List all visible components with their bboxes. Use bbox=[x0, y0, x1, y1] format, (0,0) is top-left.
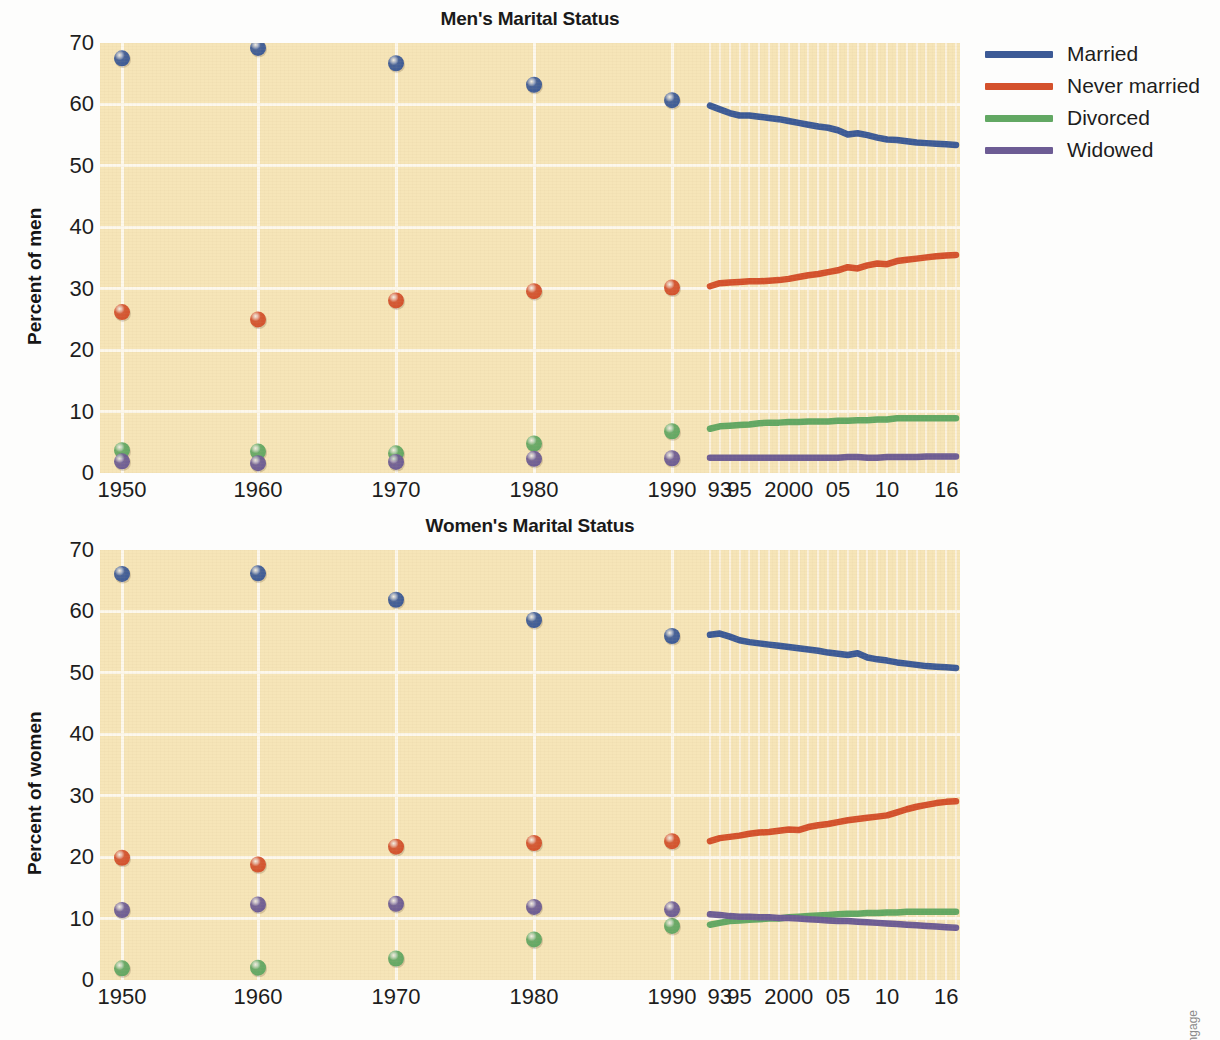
legend-label: Never married bbox=[1067, 74, 1200, 98]
series-line bbox=[710, 456, 956, 457]
data-point-marker bbox=[664, 423, 681, 441]
data-point-marker bbox=[664, 901, 681, 919]
y-tick-label: 60 bbox=[30, 91, 94, 117]
data-point-marker bbox=[664, 279, 681, 297]
y-axis-ticks-men: 010203040506070 bbox=[20, 43, 94, 473]
copyright-notice: © 2019 Cengage bbox=[1186, 1010, 1200, 1040]
x-tick-label: 05 bbox=[826, 984, 850, 1010]
x-tick-label: 1950 bbox=[98, 477, 147, 503]
x-tick-label: 1980 bbox=[510, 984, 559, 1010]
data-point-marker bbox=[388, 592, 405, 610]
y-tick-label: 70 bbox=[30, 537, 94, 563]
x-tick-label: 16 bbox=[934, 984, 958, 1010]
series-layer-women bbox=[100, 550, 960, 980]
data-point-marker bbox=[250, 896, 267, 914]
data-point-marker bbox=[526, 451, 543, 469]
y-tick-label: 30 bbox=[30, 783, 94, 809]
x-tick-label: 10 bbox=[875, 984, 899, 1010]
y-tick-label: 50 bbox=[30, 153, 94, 179]
figure-root: Men's Marital Status Percent of men 0102… bbox=[0, 0, 1220, 1040]
data-point-marker bbox=[250, 960, 267, 978]
data-point-marker bbox=[388, 55, 405, 73]
legend-men: MarriedNever marriedDivorcedWidowed bbox=[985, 38, 1200, 166]
legend-swatch bbox=[985, 83, 1053, 90]
plot-area-men bbox=[100, 43, 960, 473]
series-line bbox=[710, 634, 956, 668]
x-tick-label: 2000 bbox=[764, 477, 813, 503]
legend-item[interactable]: Divorced bbox=[985, 102, 1200, 134]
data-point-marker bbox=[388, 951, 405, 969]
data-point-marker bbox=[664, 918, 681, 936]
data-point-marker bbox=[388, 839, 405, 857]
y-tick-label: 0 bbox=[30, 460, 94, 486]
x-tick-label: 1990 bbox=[648, 477, 697, 503]
y-tick-label: 20 bbox=[30, 844, 94, 870]
data-point-marker bbox=[388, 292, 405, 310]
legend-label: Widowed bbox=[1067, 138, 1153, 162]
y-tick-label: 0 bbox=[30, 967, 94, 993]
series-line bbox=[710, 418, 956, 428]
y-tick-label: 50 bbox=[30, 660, 94, 686]
legend-item[interactable]: Never married bbox=[985, 70, 1200, 102]
x-tick-label: 1970 bbox=[372, 984, 421, 1010]
series-layer-men bbox=[100, 43, 960, 473]
data-point-marker bbox=[114, 566, 131, 584]
data-point-marker bbox=[250, 311, 267, 329]
legend-item[interactable]: Married bbox=[985, 38, 1200, 70]
data-point-marker bbox=[250, 857, 267, 875]
x-tick-label: 2000 bbox=[764, 984, 813, 1010]
y-tick-label: 20 bbox=[30, 337, 94, 363]
data-point-marker bbox=[388, 896, 405, 914]
data-point-marker bbox=[526, 77, 543, 95]
data-point-marker bbox=[526, 612, 543, 630]
data-point-marker bbox=[114, 850, 131, 868]
y-tick-label: 70 bbox=[30, 30, 94, 56]
data-point-marker bbox=[114, 50, 131, 68]
data-point-marker bbox=[664, 450, 681, 468]
data-point-marker bbox=[664, 628, 681, 646]
x-tick-label: 95 bbox=[727, 984, 751, 1010]
data-point-marker bbox=[250, 565, 267, 583]
data-point-marker bbox=[526, 835, 543, 853]
legend-item[interactable]: Widowed bbox=[985, 134, 1200, 166]
x-tick-label: 1960 bbox=[234, 477, 283, 503]
y-tick-label: 40 bbox=[30, 214, 94, 240]
x-tick-label: 16 bbox=[934, 477, 958, 503]
series-line bbox=[710, 106, 956, 145]
data-point-marker bbox=[250, 43, 267, 58]
x-tick-label: 1960 bbox=[234, 984, 283, 1010]
x-tick-label: 05 bbox=[826, 477, 850, 503]
y-tick-label: 10 bbox=[30, 399, 94, 425]
legend-label: Divorced bbox=[1067, 106, 1150, 130]
data-point-marker bbox=[114, 902, 131, 920]
legend-label: Married bbox=[1067, 42, 1138, 66]
x-tick-label: 1970 bbox=[372, 477, 421, 503]
chart-title-men: Men's Marital Status bbox=[100, 8, 960, 30]
data-point-marker bbox=[526, 931, 543, 949]
chart-panel-women: Women's Marital Status Percent of women … bbox=[0, 505, 1220, 1010]
x-tick-label: 1990 bbox=[648, 984, 697, 1010]
x-tick-label: 1980 bbox=[510, 477, 559, 503]
data-point-marker bbox=[114, 304, 131, 322]
data-point-marker bbox=[526, 899, 543, 917]
x-tick-label: 10 bbox=[875, 477, 899, 503]
y-tick-label: 30 bbox=[30, 276, 94, 302]
x-tick-label: 95 bbox=[727, 477, 751, 503]
plot-area-women bbox=[100, 550, 960, 980]
legend-swatch bbox=[985, 147, 1053, 154]
series-line bbox=[710, 801, 956, 841]
y-tick-label: 40 bbox=[30, 721, 94, 747]
x-tick-label: 1950 bbox=[98, 984, 147, 1010]
data-point-marker bbox=[114, 960, 131, 978]
legend-swatch bbox=[985, 115, 1053, 122]
chart-title-women: Women's Marital Status bbox=[100, 515, 960, 537]
legend-swatch bbox=[985, 51, 1053, 58]
y-axis-ticks-women: 010203040506070 bbox=[20, 550, 94, 980]
series-line bbox=[710, 255, 956, 286]
y-tick-label: 60 bbox=[30, 598, 94, 624]
chart-panel-men: Men's Marital Status Percent of men 0102… bbox=[0, 0, 1220, 505]
data-point-marker bbox=[664, 833, 681, 851]
y-tick-label: 10 bbox=[30, 906, 94, 932]
data-point-marker bbox=[526, 283, 543, 301]
data-point-marker bbox=[664, 92, 681, 110]
